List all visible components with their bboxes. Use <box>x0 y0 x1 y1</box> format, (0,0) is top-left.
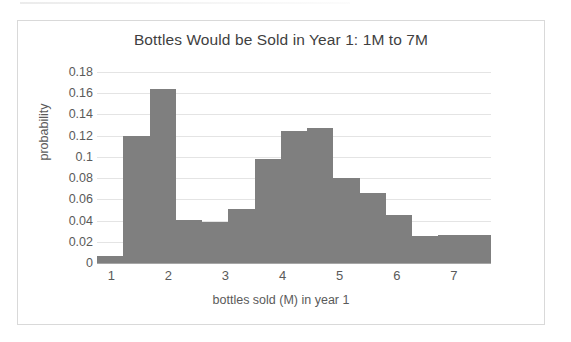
bar <box>150 89 176 263</box>
y-tick-label: 0.18 <box>69 65 93 79</box>
bar <box>438 235 491 263</box>
bar <box>176 220 202 264</box>
plot-area <box>97 72 491 263</box>
y-tick-label: 0.16 <box>69 86 93 100</box>
x-tick-label: 7 <box>450 268 457 283</box>
x-tick-label: 4 <box>279 268 286 283</box>
bar <box>202 222 228 263</box>
bar <box>412 236 438 263</box>
x-tick-label: 2 <box>165 268 172 283</box>
chart-container: Bottles Would be Sold in Year 1: 1M to 7… <box>17 20 545 325</box>
y-tick-label: 0.04 <box>69 214 93 228</box>
y-tick-label: 0.06 <box>69 192 93 206</box>
gridline <box>97 72 491 73</box>
x-tick-label: 6 <box>393 268 400 283</box>
y-tick-label: 0.14 <box>69 107 93 121</box>
y-tick-label: 0.02 <box>69 235 93 249</box>
bar <box>255 159 281 263</box>
bar <box>386 215 412 263</box>
bar <box>281 131 307 263</box>
y-tick-label: 0.1 <box>76 150 93 164</box>
bar <box>307 128 333 263</box>
x-tick-label: 1 <box>108 268 115 283</box>
x-tick-label: 3 <box>222 268 229 283</box>
bar <box>228 209 254 263</box>
x-axis-tick-labels: 1234567 <box>97 268 491 288</box>
x-tick-label: 5 <box>336 268 343 283</box>
y-tick-label: 0 <box>86 256 93 270</box>
bar <box>97 256 123 263</box>
y-axis-tick-labels: 00.020.040.060.080.10.120.140.160.18 <box>42 72 93 263</box>
bar <box>333 178 359 263</box>
scan-artifact <box>20 2 350 4</box>
bar <box>360 193 386 263</box>
y-tick-label: 0.08 <box>69 171 93 185</box>
chart-title: Bottles Would be Sold in Year 1: 1M to 7… <box>18 31 544 49</box>
axis-baseline <box>97 263 491 264</box>
y-tick-label: 0.12 <box>69 129 93 143</box>
bar <box>123 136 149 263</box>
x-axis-title: bottles sold (M) in year 1 <box>18 293 544 307</box>
